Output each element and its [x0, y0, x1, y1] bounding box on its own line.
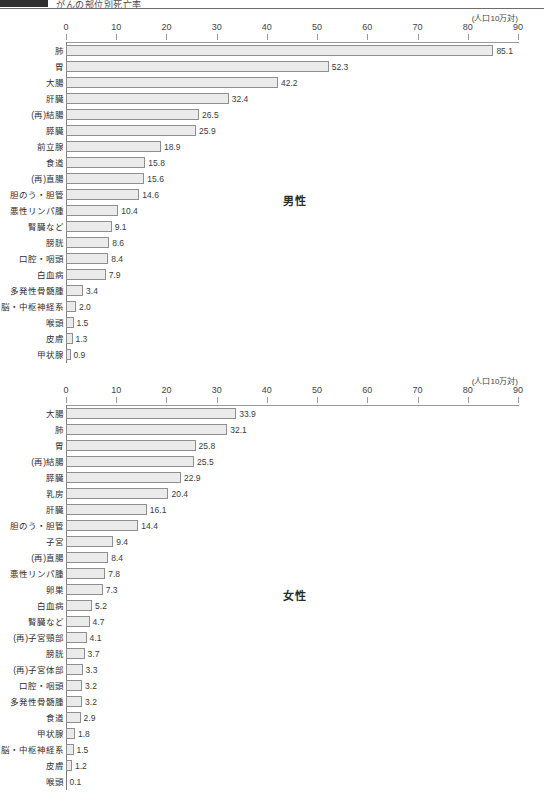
- bar-row: 膵臓25.9: [0, 123, 544, 139]
- bar-value-label: 3.4: [86, 285, 98, 297]
- bar-category-label: 肺: [55, 424, 64, 436]
- bar-row: 腎臓など9.1: [0, 219, 544, 235]
- bar-row: 脳・中枢神経系2.0: [0, 299, 544, 315]
- bar-value-label: 8.6: [112, 237, 124, 249]
- x-tick-mark: [166, 34, 167, 40]
- bar-row: 多発性骨髄腫3.2: [0, 694, 544, 710]
- bar-category-label: 食道: [46, 712, 64, 724]
- x-tick-mark: [317, 34, 318, 40]
- x-tick-label: 80: [463, 385, 473, 395]
- bar-category-label: 膀胱: [46, 237, 64, 249]
- x-tick-label: 60: [362, 22, 372, 32]
- bar-value-label: 1.2: [75, 760, 87, 772]
- x-tick-label: 70: [413, 22, 423, 32]
- bar: [66, 504, 147, 515]
- bar-value-label: 32.4: [232, 93, 249, 105]
- bar-value-label: 25.8: [199, 440, 216, 452]
- bar-row: 大腸42.2: [0, 75, 544, 91]
- bar-value-label: 4.7: [93, 616, 105, 628]
- x-tick-label: 70: [413, 385, 423, 395]
- bar-value-label: 1.3: [76, 333, 88, 345]
- x-tick-label: 80: [463, 22, 473, 32]
- header-color-swatch: [0, 0, 48, 7]
- bar-category-label: 白血病: [37, 269, 64, 281]
- bar-category-label: 肺: [55, 45, 64, 57]
- bar-rows-male: 肺85.1胃52.3大腸42.2肝臓32.4(再)結腸26.5膵臓25.9前立腺…: [0, 43, 544, 363]
- bar-value-label: 3.2: [85, 696, 97, 708]
- bar-row: 喉頭0.1: [0, 774, 544, 790]
- bar-category-label: 膵臓: [46, 472, 64, 484]
- bar-row: 食道2.9: [0, 710, 544, 726]
- page-title: がんの部位別死亡率: [56, 0, 142, 11]
- bar: [66, 680, 82, 691]
- bar-category-label: 肝臓: [46, 93, 64, 105]
- bar-row: 脳・中枢神経系1.5: [0, 742, 544, 758]
- bar-category-label: 白血病: [37, 600, 64, 612]
- bar: [66, 237, 109, 248]
- x-tick-mark: [518, 397, 519, 403]
- bar-value-label: 26.5: [202, 109, 219, 121]
- bar-value-label: 18.9: [164, 141, 181, 153]
- bar-row: 白血病5.2: [0, 598, 544, 614]
- bar-value-label: 3.7: [88, 648, 100, 660]
- bar-value-label: 33.9: [239, 408, 256, 420]
- x-tick-label: 40: [262, 22, 272, 32]
- bar-category-label: (再)直腸: [31, 552, 64, 564]
- x-tick-label: 50: [312, 22, 322, 32]
- x-axis-male: 0102030405060708090: [66, 22, 518, 42]
- bar-row: 白血病7.9: [0, 267, 544, 283]
- bar: [66, 408, 236, 419]
- x-tick-mark: [267, 34, 268, 40]
- bar-category-label: 胆のう・胆管: [10, 189, 64, 201]
- bar: [66, 584, 103, 595]
- bar-row: 甲状腺0.9: [0, 347, 544, 363]
- bar-category-label: 喉頭: [46, 776, 64, 788]
- bar-row: 大腸33.9: [0, 406, 544, 422]
- bar-category-label: 大腸: [46, 77, 64, 89]
- x-tick-mark: [66, 397, 67, 403]
- bar-value-label: 2.9: [84, 712, 96, 724]
- bar-row: 腎臓など4.7: [0, 614, 544, 630]
- x-tick-label: 0: [63, 22, 68, 32]
- bar-category-label: 腎臓など: [28, 616, 64, 628]
- bar-value-label: 85.1: [496, 45, 513, 57]
- x-tick-mark: [317, 397, 318, 403]
- bar-category-label: 多発性骨髄腫: [10, 285, 64, 297]
- bar-value-label: 20.4: [171, 488, 188, 500]
- x-tick-mark: [116, 397, 117, 403]
- bar: [66, 333, 73, 344]
- bar: [66, 712, 81, 723]
- bar-value-label: 15.8: [148, 157, 165, 169]
- bar: [66, 301, 76, 312]
- x-tick-mark: [267, 397, 268, 403]
- bar-value-label: 14.6: [142, 189, 159, 201]
- bar: [66, 93, 229, 104]
- bar-row: 口腔・咽頭8.4: [0, 251, 544, 267]
- bar-value-label: 22.9: [184, 472, 201, 484]
- x-tick-mark: [518, 34, 519, 40]
- bar: [66, 696, 82, 707]
- x-tick-label: 90: [513, 385, 523, 395]
- bar-value-label: 7.8: [108, 568, 120, 580]
- bar: [66, 760, 72, 771]
- bar-value-label: 25.9: [199, 125, 216, 137]
- bar-category-label: 肝臓: [46, 504, 64, 516]
- series-caption-male: 男性: [283, 192, 307, 208]
- bar-row: 膀胱3.7: [0, 646, 544, 662]
- bar-category-label: 前立腺: [37, 141, 64, 153]
- x-tick-label: 50: [312, 385, 322, 395]
- x-tick-label: 60: [362, 385, 372, 395]
- bar-row: 胃25.8: [0, 438, 544, 454]
- bar: [66, 488, 168, 499]
- bar-value-label: 9.4: [116, 536, 128, 548]
- bar: [66, 125, 196, 136]
- bar-category-label: 甲状腺: [37, 349, 64, 361]
- bar-category-label: 悪性リンパ腫: [10, 568, 64, 580]
- bar-category-label: 悪性リンパ腫: [10, 205, 64, 217]
- bar-value-label: 8.4: [111, 552, 123, 564]
- bar-row: 膀胱8.6: [0, 235, 544, 251]
- bar-row: 肝臓16.1: [0, 502, 544, 518]
- bar: [66, 173, 144, 184]
- bar-value-label: 1.5: [77, 317, 89, 329]
- x-tick-label: 10: [111, 22, 121, 32]
